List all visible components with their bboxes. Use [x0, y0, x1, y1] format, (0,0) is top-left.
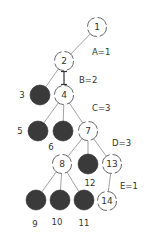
edge-n2-n4: [61, 72, 67, 85]
node-label: 3: [19, 90, 24, 100]
edge-weight-label: E=1: [120, 181, 138, 191]
filled-node-circle: [28, 121, 48, 141]
tree-node-5: [28, 121, 48, 141]
edge-n8-n10: [61, 173, 62, 190]
node-label: 4: [61, 90, 67, 100]
edge-weight-label: A=1: [92, 47, 110, 57]
node-label: 6: [48, 142, 53, 152]
tree-node-10: [50, 190, 70, 210]
filled-node-circle: [74, 190, 94, 210]
edge-n7-n8: [68, 138, 82, 156]
tree-node-11: [74, 190, 94, 210]
edge-weight-label: B=2: [79, 75, 97, 85]
filled-node-circle: [78, 154, 98, 174]
edge-n13-n14: [108, 173, 110, 191]
filled-node-circle: [30, 85, 50, 105]
tree-node-6: [53, 121, 73, 141]
edge-n2-n3: [45, 69, 58, 87]
node-label: 7: [85, 126, 91, 136]
node-label: 1: [94, 22, 100, 32]
filled-node-circle: [26, 190, 46, 210]
filled-node-circle: [53, 121, 73, 141]
node-label: 11: [79, 218, 90, 228]
tree-diagram: 1234567812139101114 A=1B=2C=3D=3E=1: [0, 0, 145, 239]
node-label: 12: [85, 178, 96, 188]
edge-n8-n11: [67, 172, 79, 192]
node-label: 10: [52, 217, 63, 227]
filled-node-circle: [50, 190, 70, 210]
node-label: 5: [17, 126, 22, 136]
edge-n4-n7: [69, 103, 82, 123]
node-label: 8: [59, 159, 65, 169]
node-label: 13: [106, 159, 117, 169]
edge-n1-n2: [71, 34, 91, 54]
edge-n8-n9: [42, 172, 57, 193]
edge-weight-label: D=3: [112, 138, 131, 148]
node-label: 2: [61, 56, 67, 66]
edge-weight-label: C=3: [92, 103, 110, 113]
tree-node-3: [30, 85, 50, 105]
node-label: 9: [32, 219, 37, 229]
tree-node-12: [78, 154, 98, 174]
edge-n4-n5: [44, 103, 59, 124]
tree-node-9: [26, 190, 46, 210]
tree-edges: [42, 34, 111, 192]
node-label: 14: [101, 196, 113, 206]
edge-n7-n13: [94, 139, 107, 157]
